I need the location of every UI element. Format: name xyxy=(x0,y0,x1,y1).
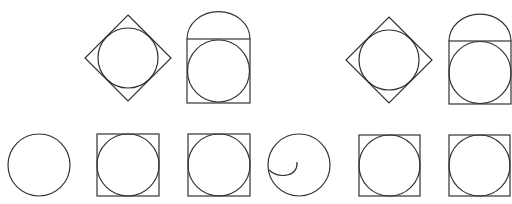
plain-circle xyxy=(8,134,70,196)
inscribed-circle xyxy=(98,28,158,88)
inscribed-circle xyxy=(449,135,510,196)
inscribed-circle xyxy=(97,134,159,196)
dome-rect-with-circle-1 xyxy=(187,12,250,103)
spiral-arc xyxy=(269,162,297,175)
semicircle-dome xyxy=(449,14,511,41)
diamond-with-inscribed-circle-2 xyxy=(346,17,432,103)
circle-with-spiral xyxy=(268,134,330,196)
dome-rect-with-circle-2 xyxy=(449,14,511,104)
square-with-circle-4 xyxy=(449,135,510,196)
inscribed-circle xyxy=(188,40,250,102)
diamond-with-inscribed-circle-1 xyxy=(85,15,171,101)
square-with-circle-1 xyxy=(97,134,159,196)
circle-outline xyxy=(268,134,330,196)
semicircle-dome xyxy=(187,12,250,39)
inscribed-circle xyxy=(359,30,419,90)
inscribed-circle xyxy=(449,42,511,104)
inscribed-circle xyxy=(359,135,420,196)
figure-canvas xyxy=(0,0,512,204)
square-with-circle-2 xyxy=(188,134,250,196)
inscribed-circle xyxy=(188,134,250,196)
circle-outline xyxy=(8,134,70,196)
square-with-circle-3 xyxy=(359,135,420,196)
